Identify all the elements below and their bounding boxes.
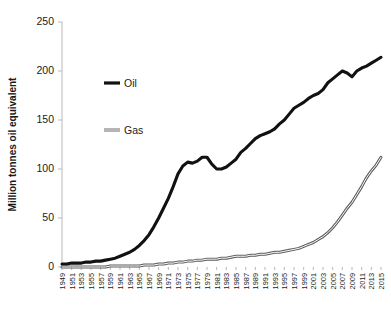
x-tick-label: 1997 — [290, 273, 299, 289]
x-tick-label: 2003 — [319, 273, 328, 289]
x-tick-label: 2013 — [367, 273, 376, 289]
x-axis: 1949195119531955195719591961196319651967… — [58, 267, 386, 289]
x-tick-label: 2009 — [348, 273, 357, 289]
x-tick-label: 1985 — [232, 273, 241, 289]
y-axis-title: Million tonnes oil equivalent — [7, 77, 18, 212]
x-tick-label: 2001 — [309, 273, 318, 289]
x-tick-label: 1999 — [300, 273, 309, 289]
x-tick-label: 1979 — [203, 273, 212, 289]
legend-item-oil: Oil — [104, 77, 137, 89]
x-tick-label: 1961 — [116, 273, 125, 289]
chart-canvas: 050100150200250 194919511953195519571959… — [0, 0, 391, 311]
x-tick-label: 1967 — [145, 273, 154, 289]
x-tick-label: 2015 — [377, 273, 386, 289]
y-tick-label: 100 — [36, 162, 54, 174]
x-tick-label: 1975 — [184, 273, 193, 289]
x-tick-label: 1989 — [251, 273, 260, 289]
y-tick-label: 150 — [36, 113, 54, 125]
plot-series — [62, 57, 381, 267]
y-tick-label: 250 — [36, 15, 54, 27]
x-axis-ticks: 1949195119531955195719591961196319651967… — [58, 267, 386, 289]
x-tick-label: 1965 — [135, 273, 144, 289]
legend-item-gas: Gas — [104, 124, 143, 136]
line-chart: 050100150200250 194919511953195519571959… — [0, 0, 391, 311]
y-axis-ticks: 050100150200250 — [36, 15, 62, 272]
x-tick-label: 1951 — [68, 273, 77, 289]
y-tick-label: 50 — [42, 211, 54, 223]
x-tick-label: 1971 — [164, 273, 173, 289]
chart-legend: Oil Gas — [104, 77, 143, 136]
x-tick-label: 1993 — [271, 273, 280, 289]
y-tick-label: 200 — [36, 64, 54, 76]
series-line-gas — [62, 157, 381, 267]
x-tick-label: 1981 — [213, 273, 222, 289]
y-axis: 050100150200250 — [36, 15, 62, 272]
x-tick-label: 1973 — [174, 273, 183, 289]
x-tick-label: 1959 — [106, 273, 115, 289]
legend-label-oil: Oil — [124, 77, 137, 89]
series-line-gas-highlight — [62, 157, 381, 267]
series-line-oil — [62, 57, 381, 264]
x-tick-label: 1969 — [155, 273, 164, 289]
x-tick-label: 1987 — [242, 273, 251, 289]
x-tick-label: 1991 — [261, 273, 270, 289]
x-tick-label: 1983 — [222, 273, 231, 289]
x-tick-label: 2005 — [329, 273, 338, 289]
x-tick-label: 2011 — [358, 273, 367, 289]
x-tick-label: 1949 — [58, 273, 67, 289]
x-tick-label: 1957 — [97, 273, 106, 289]
x-tick-label: 1953 — [77, 273, 86, 289]
legend-label-gas: Gas — [124, 124, 143, 136]
y-tick-label: 0 — [48, 260, 54, 272]
x-tick-label: 2007 — [338, 273, 347, 289]
x-tick-label: 1955 — [87, 273, 96, 289]
x-tick-label: 1977 — [193, 273, 202, 289]
x-tick-label: 1963 — [126, 273, 135, 289]
x-tick-label: 1995 — [280, 273, 289, 289]
